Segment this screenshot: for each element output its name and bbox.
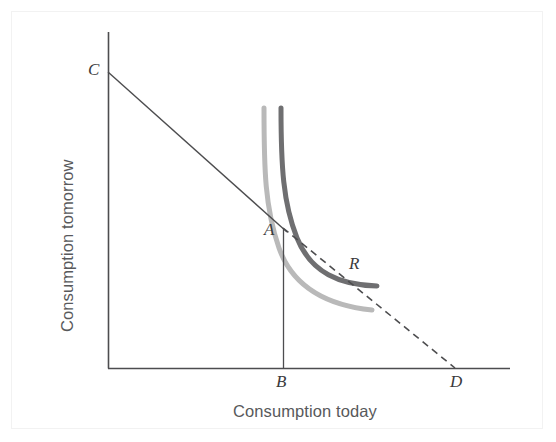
original-budget-line <box>108 72 287 232</box>
point-label-a: A <box>264 220 274 240</box>
point-label-c: C <box>88 60 99 80</box>
indifference-curve-dark <box>281 108 377 286</box>
point-label-r: R <box>349 254 359 274</box>
point-label-b: B <box>276 372 286 392</box>
new-budget-line-dashed <box>283 228 455 368</box>
x-axis-title: Consumption today <box>233 402 377 421</box>
point-label-d: D <box>450 372 462 392</box>
y-axis-title: Consumption tomorrow <box>58 159 77 332</box>
figure-container: Consumption today Consumption tomorrow C… <box>0 0 556 442</box>
